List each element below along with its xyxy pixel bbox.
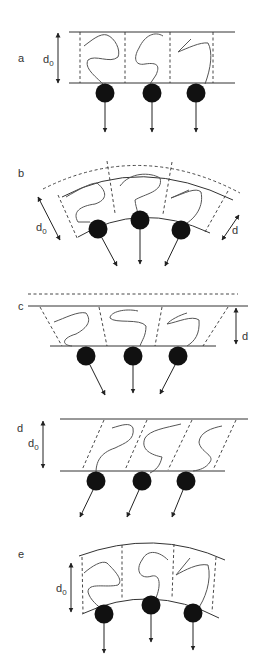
panel-label-c: c [18,300,24,312]
d0-label: d0 [56,582,67,597]
particle [95,605,114,624]
polymer-chain [193,426,222,471]
panel-c: c d [18,294,248,395]
panel-label-b: b [18,167,24,179]
polymer-chain [66,183,105,222]
polymer-chain [136,34,163,84]
d-label: d [232,224,238,236]
particle [187,84,206,103]
top-boundary [79,543,225,560]
particle [177,472,196,491]
particle [87,472,106,491]
d0-label: d0 [36,221,47,236]
panel-label-e: e [18,548,24,560]
particle [96,84,115,103]
panel-b: b d0 d [18,161,240,266]
particle [172,221,191,240]
particle [124,347,143,366]
panel-a: a d0 [18,32,235,132]
polymer-chain [178,39,211,84]
top-boundary [62,177,233,200]
particle [143,84,162,103]
polymer-chain [139,552,168,600]
d0-label: d0 [43,53,54,68]
particle [77,347,96,366]
panel-label-a: a [18,52,25,64]
undeformed-top-boundary [43,165,240,193]
polymer-chain [176,558,209,610]
d-label: d [242,330,248,342]
panel-e: e d0 [18,543,225,653]
polymer-chain [144,424,181,473]
polymer-chain [167,313,199,346]
polymer-chain [171,190,202,225]
particle [184,604,203,623]
particle [142,596,161,615]
diagram: a d0 b d0 [0,0,262,671]
polymer-chain [110,310,146,346]
d0-label: d0 [28,437,39,452]
polymer-chain [84,35,119,84]
particle [169,347,188,366]
panel-d: d d0 [17,419,248,517]
particle [131,211,150,230]
particle [89,220,108,239]
polymer-chain [96,425,133,473]
particle [133,472,152,491]
panel-label-d: d [17,422,23,434]
